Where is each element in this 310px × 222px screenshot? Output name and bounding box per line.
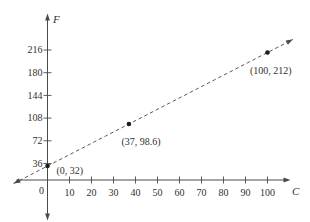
figure-canvas: 10203040506070809010002161801441087236FC… xyxy=(0,0,310,222)
data-point xyxy=(45,164,50,169)
point-label: (37, 98.6) xyxy=(121,136,160,148)
x-tick-label: 20 xyxy=(87,187,97,198)
y-tick-label: 72 xyxy=(33,135,43,146)
point-label: (100, 212) xyxy=(250,65,292,77)
x-tick-label: 10 xyxy=(65,187,75,198)
x-tick-label: 100 xyxy=(260,187,275,198)
line-arrow-up-right-icon xyxy=(286,37,294,44)
origin-label: 0 xyxy=(39,185,44,196)
x-tick-label: 80 xyxy=(219,187,229,198)
y-tick-label: 144 xyxy=(28,90,43,101)
x-tick-label: 70 xyxy=(197,187,207,198)
x-axis-label: C xyxy=(292,185,300,197)
y-axis-bottom-arrow-icon xyxy=(45,214,50,221)
x-tick-label: 60 xyxy=(175,187,185,198)
y-axis-top-arrow-icon xyxy=(45,14,50,21)
x-tick-label: 40 xyxy=(131,187,141,198)
y-tick-label: 180 xyxy=(28,67,43,78)
point-label: (0, 32) xyxy=(57,165,84,177)
data-point xyxy=(265,50,270,55)
conversion-chart: 10203040506070809010002161801441087236FC… xyxy=(0,0,310,222)
y-axis-label: F xyxy=(52,13,60,25)
x-tick-label: 30 xyxy=(109,187,119,198)
line-arrow-down-left-icon xyxy=(12,178,20,185)
y-tick-label: 216 xyxy=(28,44,43,55)
x-tick-label: 50 xyxy=(153,187,163,198)
data-point xyxy=(127,122,132,127)
x-axis-arrow-icon xyxy=(284,178,291,183)
x-tick-label: 90 xyxy=(241,187,251,198)
conversion-line xyxy=(14,39,294,183)
y-tick-label: 108 xyxy=(28,112,43,123)
y-tick-label: 36 xyxy=(33,158,43,169)
